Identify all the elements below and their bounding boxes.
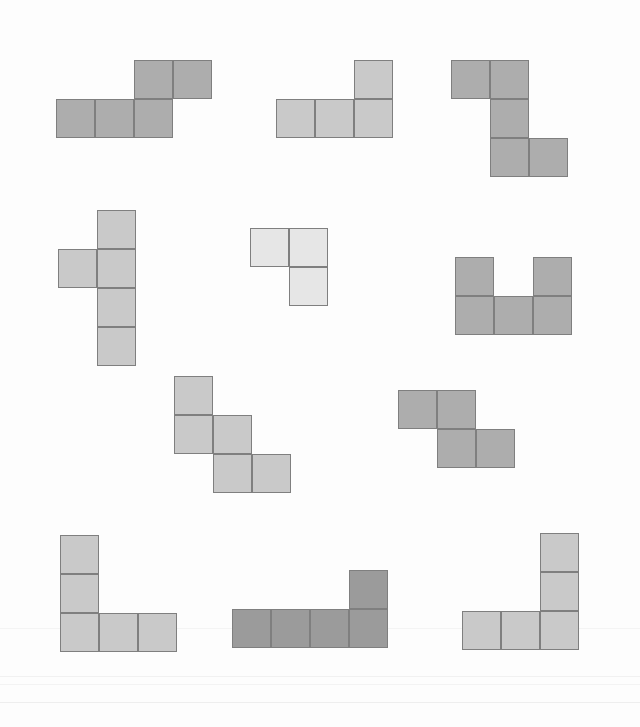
polyomino-cell: [315, 99, 354, 138]
polyomino-cell: [437, 429, 476, 468]
polyomino-cell: [533, 257, 572, 296]
polyomino-cell: [540, 572, 579, 611]
polyomino-cell: [289, 228, 328, 267]
polyomino-cell: [276, 99, 315, 138]
polyomino-cell: [134, 99, 173, 138]
polyomino-cell: [97, 288, 136, 327]
polyomino-cell: [213, 454, 252, 493]
polyomino-cell: [58, 249, 97, 288]
polyomino-cell: [354, 60, 393, 99]
polyomino-cell: [134, 60, 173, 99]
polyomino-cell: [398, 390, 437, 429]
polyomino-cell: [60, 613, 99, 652]
polyomino-cell: [250, 228, 289, 267]
polyomino-cell: [232, 609, 271, 648]
polyomino-cell: [138, 613, 177, 652]
polyomino-cell: [174, 415, 213, 454]
polyomino-cell: [462, 611, 501, 650]
paper-grain-line: [0, 702, 640, 703]
polyomino-cell: [349, 609, 388, 648]
shapes-canvas: [0, 0, 640, 727]
polyomino-cell: [97, 249, 136, 288]
paper-grain-line: [0, 676, 640, 677]
polyomino-cell: [354, 99, 393, 138]
polyomino-cell: [213, 415, 252, 454]
polyomino-cell: [455, 257, 494, 296]
polyomino-cell: [490, 138, 529, 177]
polyomino-cell: [173, 60, 212, 99]
polyomino-cell: [60, 574, 99, 613]
polyomino-cell: [501, 611, 540, 650]
polyomino-cell: [97, 210, 136, 249]
polyomino-cell: [349, 570, 388, 609]
polyomino-cell: [476, 429, 515, 468]
polyomino-cell: [490, 60, 529, 99]
polyomino-cell: [60, 535, 99, 574]
polyomino-cell: [540, 611, 579, 650]
paper-grain-line: [0, 684, 640, 685]
polyomino-cell: [437, 390, 476, 429]
polyomino-cell: [455, 296, 494, 335]
polyomino-cell: [529, 138, 568, 177]
polyomino-cell: [99, 613, 138, 652]
polyomino-cell: [56, 99, 95, 138]
polyomino-cell: [271, 609, 310, 648]
polyomino-cell: [289, 267, 328, 306]
polyomino-cell: [490, 99, 529, 138]
polyomino-cell: [95, 99, 134, 138]
polyomino-cell: [97, 327, 136, 366]
polyomino-cell: [540, 533, 579, 572]
polyomino-cell: [494, 296, 533, 335]
polyomino-cell: [310, 609, 349, 648]
polyomino-cell: [533, 296, 572, 335]
polyomino-cell: [252, 454, 291, 493]
polyomino-cell: [451, 60, 490, 99]
polyomino-cell: [174, 376, 213, 415]
